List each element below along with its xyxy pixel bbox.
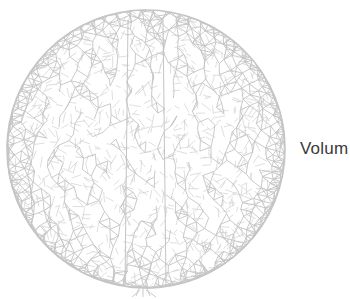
mesh-edge (81, 235, 84, 246)
mesh-edge (69, 102, 76, 103)
mesh-edge (43, 121, 47, 125)
mesh-edge (192, 65, 195, 70)
mesh-edge (114, 180, 120, 185)
mesh-edge (94, 122, 98, 127)
mesh-edge (56, 80, 63, 85)
mesh-edge (235, 77, 237, 81)
mesh-edge (146, 239, 147, 246)
mesh-edge (174, 106, 179, 109)
mesh-edge (154, 189, 161, 197)
mesh-edge (57, 61, 61, 68)
mesh-edge (200, 140, 201, 151)
mesh-edge (112, 43, 113, 52)
mesh-edge (84, 32, 97, 35)
mesh-edge (144, 100, 151, 103)
mesh-edge (226, 123, 234, 128)
mesh-edge (189, 191, 194, 197)
mesh-edge (205, 218, 209, 229)
mesh-edge (158, 138, 162, 149)
mesh-edge (106, 197, 114, 201)
mesh-edge (53, 72, 59, 75)
mesh-edge (110, 31, 112, 38)
mesh-edge (202, 103, 211, 111)
mesh-edge (121, 117, 130, 121)
mesh-edge (30, 157, 32, 164)
mesh-edge (95, 154, 96, 165)
mesh-edge (74, 253, 78, 257)
mesh-edge (152, 102, 156, 106)
mesh-edge (254, 198, 255, 205)
mesh-edge (85, 227, 95, 228)
mesh-edge (134, 199, 137, 210)
mesh-edge (33, 150, 36, 159)
mesh-edge (94, 146, 99, 148)
mesh-edge (130, 47, 135, 54)
mesh-edge (214, 165, 221, 172)
mesh-edge (116, 248, 118, 254)
mesh-edge (132, 18, 139, 22)
mesh-edge (38, 175, 41, 180)
mesh-edge (75, 139, 84, 146)
mesh-edge (63, 42, 64, 51)
mesh-edge (271, 126, 276, 133)
mesh-edge (130, 146, 137, 148)
mesh-edge (206, 137, 211, 140)
mesh-edge (192, 174, 200, 183)
mesh-edge (172, 35, 180, 36)
mesh-edge (83, 119, 89, 127)
mesh-edge (253, 130, 259, 138)
wireframe-sphere (0, 0, 300, 299)
mesh-edge (208, 118, 215, 125)
mesh-edge (172, 67, 177, 68)
mesh-edge (186, 250, 187, 257)
mesh-edge (213, 105, 214, 114)
mesh-edge (22, 133, 25, 140)
mesh-edge (166, 117, 167, 124)
mesh-edge (70, 57, 79, 64)
mesh-edge (217, 120, 222, 122)
mesh-edge (193, 84, 194, 95)
mesh-edge (240, 110, 241, 121)
mesh-edge (272, 172, 280, 175)
mesh-edge (53, 232, 56, 242)
mesh-edge (261, 119, 263, 130)
mesh-edge (215, 116, 226, 118)
mesh-edge (81, 141, 90, 144)
mesh-edge (104, 157, 112, 163)
mesh-edge (147, 170, 152, 174)
mesh-edge (93, 35, 97, 42)
mesh-edge (220, 227, 229, 228)
mesh-edge (178, 37, 179, 48)
mesh-edge (156, 206, 157, 217)
mesh-edge (97, 223, 98, 232)
mesh-edge (49, 98, 57, 103)
mesh-edge (30, 123, 34, 133)
mesh-edge (176, 158, 177, 163)
mesh-edge (91, 97, 98, 101)
mesh-edge (186, 257, 194, 264)
mesh-edge (142, 60, 149, 61)
mesh-edge (48, 149, 55, 160)
mesh-edge (56, 206, 60, 217)
mesh-edge (178, 219, 186, 226)
mesh-edge (247, 236, 252, 239)
mesh-edge (89, 146, 93, 157)
mesh-edge (164, 137, 170, 138)
mesh-edge (187, 83, 188, 88)
mesh-edge (188, 197, 199, 204)
mesh-edge (173, 91, 174, 98)
mesh-edge (246, 147, 247, 153)
mesh-edge (223, 211, 230, 212)
mesh-edge (77, 70, 88, 77)
mesh-edge (43, 200, 51, 207)
mesh-edge (219, 96, 221, 103)
mesh-edge (42, 175, 49, 180)
mesh-edge (219, 180, 226, 189)
mesh-edge (247, 101, 252, 104)
mesh-edge (254, 194, 257, 198)
mesh-edge (271, 122, 278, 126)
mesh-edge (20, 151, 21, 162)
mesh-edge (51, 182, 58, 188)
mesh-edge (244, 127, 256, 129)
mesh-edge (243, 208, 249, 210)
